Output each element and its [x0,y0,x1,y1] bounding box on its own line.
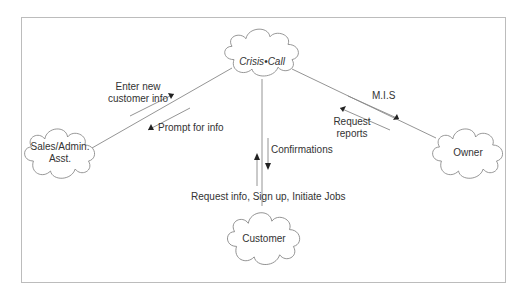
customer-label: Customer [242,233,285,244]
node-crisis-call: Crisis•Call [232,56,292,68]
flow-enter-customer-info: Enter new customer info [100,81,176,105]
sales-label-line1: Sales/Admin. [20,141,100,153]
crisis-label: Crisis [239,56,264,67]
flow-enter-line2: customer info [100,93,176,105]
node-owner: Owner [438,147,498,159]
arrowhead-request-info-icon [254,153,260,160]
flow-enter-line1: Enter new [100,81,176,93]
flow-request-reports: Request reports [324,116,380,140]
node-sales-admin: Sales/Admin. Asst. [20,141,100,165]
call-label: Call [268,56,285,67]
flow-request-line2: reports [324,128,380,140]
owner-label: Owner [453,147,482,158]
crisis-call-cloud [225,29,299,76]
flow-mis: M.I.S [372,90,395,102]
node-customer: Customer [234,233,294,245]
flow-prompt-for-info: Prompt for info [158,122,224,134]
flow-request-info-signup-jobs: Request info, Sign up, Initiate Jobs [191,191,346,203]
sales-label-line2: Asst. [20,153,100,165]
link-sales-cc [92,68,232,148]
arrowhead-confirmations-icon [265,163,271,170]
flow-confirmations: Confirmations [271,144,333,156]
flow-request-line1: Request [324,116,380,128]
arrowhead-request-reports-icon [340,106,346,112]
